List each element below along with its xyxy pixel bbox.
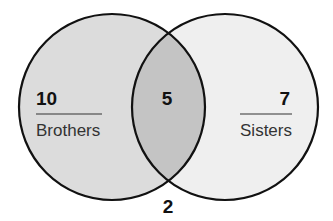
outside-count: 2 [163,196,174,217]
brothers-label: Brothers [36,121,100,140]
venn-diagram: 10 Brothers 5 7 Sisters 2 [0,0,333,221]
sisters-label: Sisters [240,121,292,140]
sisters-only-count: 7 [279,88,290,109]
brothers-only-count: 10 [36,88,57,109]
intersection-count: 5 [162,88,173,109]
